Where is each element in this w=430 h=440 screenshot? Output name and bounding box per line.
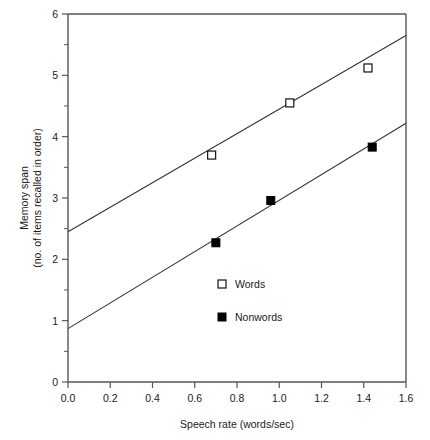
legend-label-words: Words [235, 278, 265, 290]
y-tick-label: 3 [52, 192, 58, 204]
y-tick-label: 5 [52, 69, 58, 81]
data-point-nonwords [267, 196, 275, 204]
data-point-words [286, 99, 294, 107]
data-point-nonwords [368, 143, 376, 151]
scatter-plot-svg: 0123456 0.00.20.40.60.81.01.21.41.6 Memo… [0, 0, 430, 440]
x-tick-label: 0.6 [187, 392, 202, 404]
x-tick-label: 1.4 [356, 392, 371, 404]
data-point-words [364, 64, 372, 72]
y-axis-title-line1: Memory span [18, 166, 30, 230]
x-tick-label: 0.2 [103, 392, 118, 404]
data-point-words [208, 151, 216, 159]
y-tick-label: 1 [52, 315, 58, 327]
y-tick-label: 2 [52, 253, 58, 265]
data-point-nonwords [212, 239, 220, 247]
y-tick-label: 4 [52, 131, 58, 143]
x-tick-label: 0.8 [230, 392, 245, 404]
y-tick-label: 0 [52, 376, 58, 388]
x-tick-label: 1.6 [399, 392, 414, 404]
y-axis-title-line2: (no. of items recalled in order) [31, 128, 43, 267]
open-square-icon [218, 280, 226, 288]
x-tick-label: 1.2 [314, 392, 329, 404]
x-tick-label: 1.0 [272, 392, 287, 404]
x-tick-label: 0.0 [61, 392, 76, 404]
y-tick-label: 6 [52, 8, 58, 20]
filled-square-icon [218, 313, 226, 321]
x-axis-tick-labels: 0.00.20.40.60.81.01.21.41.6 [61, 392, 414, 404]
chart-figure: 0123456 0.00.20.40.60.81.01.21.41.6 Memo… [0, 0, 430, 440]
x-axis-title: Speech rate (words/sec) [180, 418, 294, 430]
legend-entry-words: Words [218, 278, 265, 290]
legend-label-nonwords: Nonwords [235, 311, 282, 323]
x-tick-label: 0.4 [145, 392, 160, 404]
